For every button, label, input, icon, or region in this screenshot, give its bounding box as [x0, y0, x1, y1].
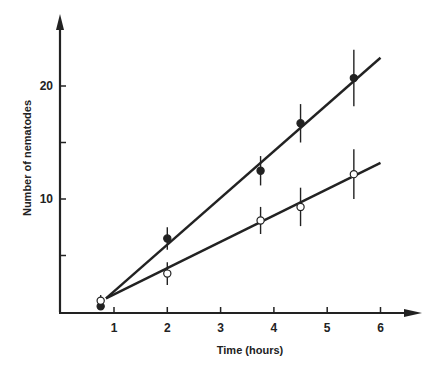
fit-line: [106, 58, 380, 299]
x-tick-label: 1: [111, 321, 118, 335]
series-filled-circle: [97, 50, 380, 310]
open-circle-marker: [297, 203, 304, 210]
filled-circle-marker: [350, 74, 357, 81]
open-circle-marker: [350, 171, 357, 178]
y-axis-arrow-icon: [56, 14, 64, 30]
open-circle-marker: [257, 217, 264, 224]
fit-line: [106, 163, 380, 299]
y-axis: 1020: [40, 14, 66, 312]
x-axis: 123456: [59, 307, 422, 335]
open-circle-marker: [164, 270, 171, 277]
series-open-circle: [97, 149, 380, 306]
y-axis-title: Number of nematodes: [21, 100, 33, 216]
y-tick-label: 10: [40, 192, 54, 206]
x-tick-label: 2: [164, 321, 171, 335]
x-tick-label: 3: [217, 321, 224, 335]
line-chart: 1020 123456 Time (hours) Number of nemat…: [0, 0, 439, 374]
x-axis-title: Time (hours): [217, 344, 284, 356]
x-tick-label: 5: [324, 321, 331, 335]
x-tick-label: 4: [271, 321, 278, 335]
filled-circle-marker: [257, 167, 264, 174]
y-tick-label: 20: [40, 79, 54, 93]
x-axis-arrow-icon: [404, 309, 422, 317]
plot-area: [97, 50, 380, 310]
x-tick-label: 6: [377, 321, 384, 335]
open-circle-marker: [97, 297, 104, 304]
filled-circle-marker: [297, 120, 304, 127]
filled-circle-marker: [164, 235, 171, 242]
